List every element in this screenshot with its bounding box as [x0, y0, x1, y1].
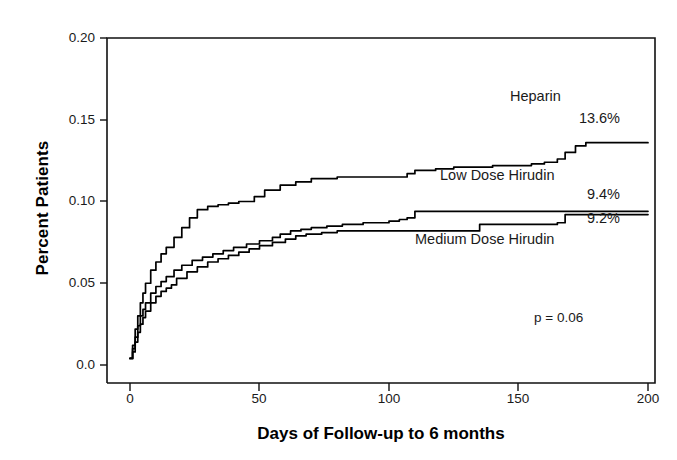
series-label-heparin: Heparin	[510, 88, 561, 104]
series-label-low-dose-hirudin: Low Dose Hirudin	[440, 167, 554, 183]
series-value-heparin: 13.6%	[490, 110, 620, 126]
series-label-medium-dose-hirudin: Medium Dose Hirudin	[415, 231, 554, 247]
series-value-low-dose-hirudin: 9.4%	[490, 186, 620, 202]
series-line-low-dose-hirudin	[130, 211, 648, 358]
series-line-medium-dose-hirudin	[130, 215, 648, 359]
survival-curve-figure: Percent Patients Days of Follow-up to 6 …	[0, 0, 677, 460]
plot-area	[0, 0, 677, 460]
series-line-heparin	[130, 143, 648, 359]
series-lines	[130, 143, 648, 359]
p-value-annotation: p = 0.06	[534, 310, 583, 325]
series-value-medium-dose-hirudin: 9.2%	[490, 210, 620, 226]
